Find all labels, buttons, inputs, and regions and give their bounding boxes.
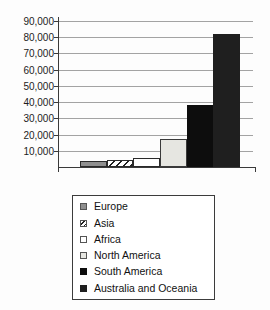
- y-axis-tick-label: 50,000: [8, 81, 54, 92]
- legend-item-north-america: North America: [80, 248, 210, 263]
- legend-swatch-australia-and-oceania: [80, 285, 87, 292]
- legend-item-africa: Africa: [80, 232, 210, 247]
- legend-item-asia: Asia: [80, 216, 210, 231]
- bar-europe: [80, 161, 107, 167]
- legend-swatch-europe: [80, 203, 87, 210]
- legend-item-south-america: South America: [80, 264, 210, 279]
- legend-swatch-north-america: [80, 252, 87, 259]
- legend-label: North America: [94, 250, 161, 261]
- legend-item-australia-and-oceania: Australia and Oceania: [80, 281, 210, 296]
- legend-swatch-south-america: [80, 268, 87, 275]
- legend-label: Africa: [94, 234, 121, 245]
- bar-asia: [107, 160, 133, 167]
- chart-legend: EuropeAsiaAfricaNorth AmericaSouth Ameri…: [72, 195, 215, 300]
- bar-south-america: [187, 105, 213, 167]
- y-axis-tick-label: 80,000: [8, 32, 54, 43]
- y-axis-tick-label: 30,000: [8, 113, 54, 124]
- legend-item-europe: Europe: [80, 199, 210, 214]
- bar-chart-figure: 10,00020,00030,00040,00050,00060,00070,0…: [0, 0, 270, 310]
- y-axis-tick-label: 60,000: [8, 65, 54, 76]
- y-axis-tick-label: 90,000: [8, 16, 54, 27]
- bar-north-america: [160, 139, 187, 167]
- y-gridline: [59, 21, 253, 22]
- x-axis-line: [58, 167, 256, 168]
- legend-swatch-asia: [80, 220, 87, 227]
- y-axis-tick-label: 20,000: [8, 130, 54, 141]
- legend-label: Australia and Oceania: [94, 283, 197, 294]
- bar-australia-and-oceania: [213, 34, 240, 167]
- x-axis-end-tick: [255, 167, 256, 172]
- legend-label: Europe: [94, 201, 128, 212]
- y-axis-tick-label: 70,000: [8, 48, 54, 59]
- y-axis-tick-label: 10,000: [8, 146, 54, 157]
- y-axis-tick-label: 40,000: [8, 97, 54, 108]
- plot-area: 10,00020,00030,00040,00050,00060,00070,0…: [0, 0, 270, 185]
- legend-label: Asia: [94, 218, 114, 229]
- legend-swatch-africa: [80, 236, 87, 243]
- bar-africa: [133, 158, 160, 167]
- legend-label: South America: [94, 266, 162, 277]
- y-axis-line: [58, 17, 59, 172]
